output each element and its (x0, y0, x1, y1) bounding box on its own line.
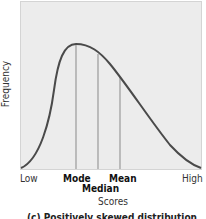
y-axis-label: Frequency (0, 56, 12, 112)
x-tick-low: Low (20, 173, 38, 185)
x-tick-median: Median (82, 183, 119, 195)
x-tick-high: High (182, 173, 203, 185)
x-axis-label: Scores (0, 196, 206, 207)
chart-caption: (c) Positively skewed distribution (0, 212, 206, 219)
